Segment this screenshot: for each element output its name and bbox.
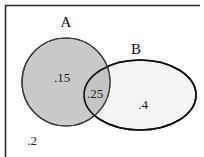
venn-diagram-canvas	[0, 0, 204, 157]
venn-diagram-figure: A B .15 .25 .4 .2	[0, 0, 204, 157]
